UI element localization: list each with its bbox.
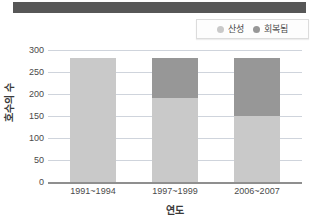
bar-segment-recovered-1997-1999[interactable] [152, 58, 198, 99]
bar-segment-acidic-2006-2007[interactable] [234, 116, 280, 182]
legend-label-acidic: 산성 [228, 25, 244, 34]
bar-1991-1994[interactable] [70, 58, 116, 183]
legend-entry-acidic[interactable]: 산성 [217, 25, 244, 34]
x-axis-line [48, 182, 302, 184]
legend-label-recovered: 회복됨 [264, 25, 288, 34]
legend-swatch-acidic [217, 26, 224, 33]
y-tick-50: 50 [10, 155, 44, 164]
y-axis-title: 호수의 수 [1, 81, 16, 125]
y-tick-300: 300 [10, 46, 44, 55]
x-tick-1997-1999: 1997~1999 [130, 187, 220, 196]
y-tick-100: 100 [10, 134, 44, 143]
y-tick-250: 250 [10, 68, 44, 77]
x-tick-1991-1994: 1991~1994 [48, 187, 138, 196]
bar-1997-1999[interactable] [152, 58, 198, 183]
bar-segment-recovered-2006-2007[interactable] [234, 58, 280, 117]
chart-legend: 산성 회복됨 [196, 19, 309, 39]
x-axis-tick-labels: 1991~1994 1997~1999 2006~2007 [48, 187, 302, 199]
bar-segment-acidic-1991-1994[interactable] [70, 58, 116, 183]
chart-figure: 산성 회복됨 300 250 200 150 100 50 0 호수의 수 [0, 13, 319, 219]
x-tick-2006-2007: 2006~2007 [212, 187, 302, 196]
y-tick-0: 0 [10, 178, 44, 187]
plot-area [48, 50, 302, 182]
top-banner-strip [13, 2, 306, 13]
legend-entry-recovered[interactable]: 회복됨 [253, 25, 288, 34]
legend-swatch-recovered [253, 26, 260, 33]
gridline-300 [48, 50, 302, 51]
bar-segment-acidic-1997-1999[interactable] [152, 98, 198, 182]
bar-2006-2007[interactable] [234, 58, 280, 183]
x-axis-title: 연도 [48, 202, 302, 217]
